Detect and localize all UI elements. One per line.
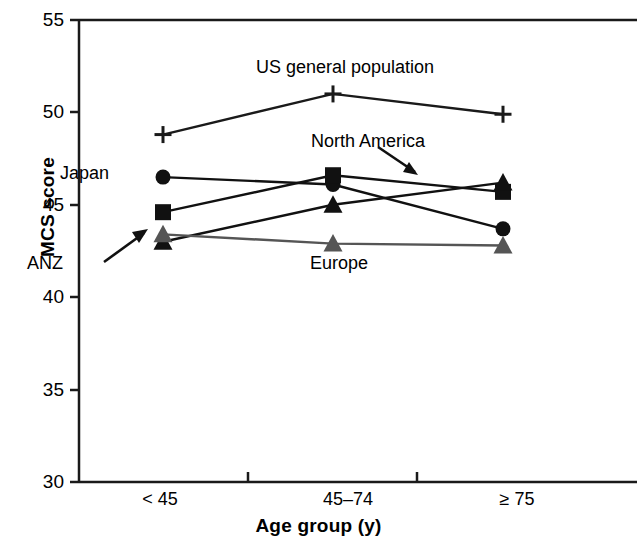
data-point: [155, 126, 172, 143]
arrow-north-america: [378, 147, 418, 175]
series-layer: [154, 85, 513, 253]
data-point: [325, 167, 341, 183]
data-point: [325, 85, 342, 102]
axis-lines: [79, 20, 637, 482]
y-axis-ticks: [70, 20, 79, 482]
data-point: [156, 170, 171, 185]
data-point: [495, 106, 512, 123]
plot-area: [0, 0, 637, 542]
arrow-anz: [104, 229, 148, 262]
chart-figure: MCS score 55 50 45 40 35 30 < 45 45–74 ≥…: [0, 0, 637, 542]
series-europe: [154, 225, 513, 254]
data-point: [155, 204, 171, 220]
x-axis-ticks: [248, 472, 417, 482]
data-point: [496, 221, 511, 236]
data-point: [494, 173, 513, 191]
series-us-general-population: [155, 85, 512, 143]
